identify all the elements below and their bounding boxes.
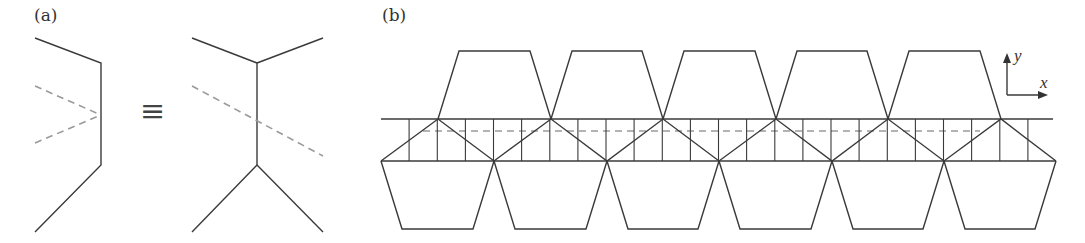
x-arrow-icon (1038, 91, 1048, 99)
bent-chain-figure (35, 38, 101, 232)
lower-trapezoid (381, 161, 494, 229)
lower-trapezoid (494, 161, 607, 229)
upper-trapezoid (551, 51, 663, 119)
y-arrow-icon (1003, 53, 1011, 63)
panel-a-label: (a) (34, 5, 57, 25)
branch-line (192, 38, 257, 63)
upper-trapezoid (888, 51, 1001, 119)
upper-trapezoid (438, 51, 551, 119)
lower-trapezoid (719, 161, 832, 229)
central-strip (381, 119, 1056, 161)
equivalence-symbol: ≡ (140, 93, 165, 128)
upper-trapezoid (776, 51, 888, 119)
panel-b-label: (b) (382, 5, 406, 25)
lower-trapezoid-row (381, 161, 1056, 229)
double-junction-figure (192, 38, 323, 232)
y-axis-label: y (1012, 46, 1022, 65)
panel-b: (b) y x (381, 5, 1056, 229)
panel-a: (a) ≡ (34, 5, 323, 232)
dashed-line (35, 115, 101, 143)
lower-trapezoid (944, 161, 1056, 229)
coordinate-axes: y x (1003, 46, 1048, 99)
branch-line (257, 38, 323, 63)
upper-trapezoid-row (438, 51, 1001, 119)
lower-trapezoid (832, 161, 944, 229)
figure-canvas: (a) ≡ (b) y x (0, 0, 1085, 243)
branch-line (257, 165, 323, 232)
upper-trapezoid (663, 51, 776, 119)
x-axis-label: x (1039, 73, 1048, 92)
lower-trapezoid (607, 161, 719, 229)
branch-line (192, 165, 257, 232)
chain-line (35, 38, 101, 232)
dashed-line (35, 86, 101, 115)
